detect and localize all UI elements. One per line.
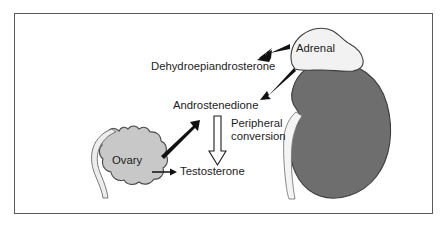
figure-root: Dehydroepiandrosterone Androstenedione T… — [0, 0, 448, 230]
label-testosterone: Testosterone — [180, 165, 245, 178]
kidney-shape — [290, 61, 391, 198]
label-peripheral-conversion: Peripheral conversion — [231, 117, 286, 142]
label-adrenal: Adrenal — [296, 42, 335, 55]
arrow-adrenal-to-androstenedione — [260, 68, 296, 100]
arrow-ovary-to-androstenedione — [161, 120, 200, 159]
arrow-peripheral-conversion — [209, 116, 226, 165]
label-dehydroepiandrosterone: Dehydroepiandrosterone — [151, 60, 275, 73]
label-peripheral-conversion-line2: conversion — [231, 130, 286, 143]
label-peripheral-conversion-line1: Peripheral — [231, 117, 286, 130]
label-androstenedione: Androstenedione — [173, 99, 258, 112]
diagram-artwork — [0, 0, 448, 230]
label-ovary: Ovary — [112, 154, 142, 167]
